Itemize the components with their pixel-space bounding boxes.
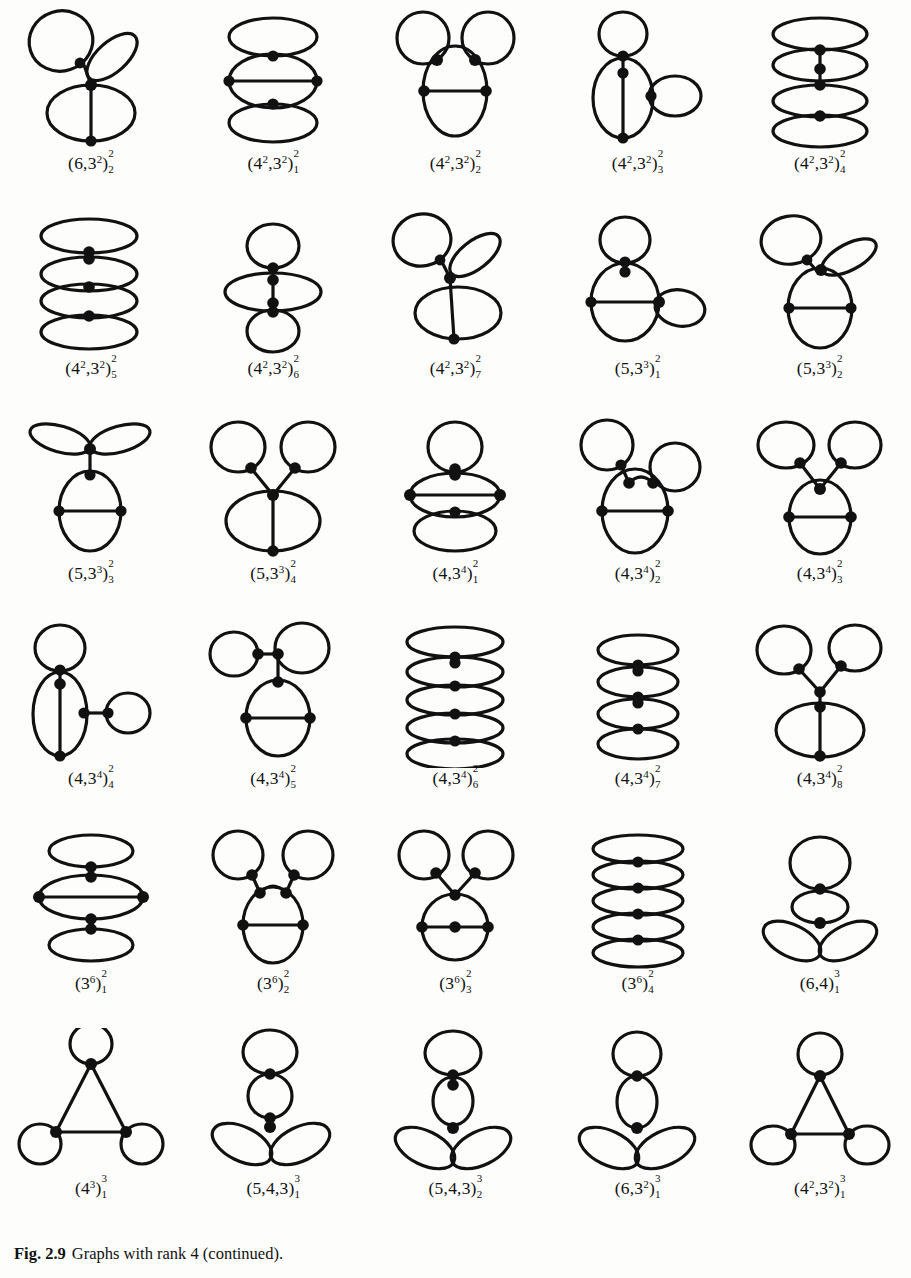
graph-drawing-g1 xyxy=(0,0,182,155)
graph-label: (5,33)23 xyxy=(68,561,114,583)
graph-label: (4,34)26 xyxy=(432,766,478,788)
graph-cell: (42,32)23 xyxy=(547,0,729,205)
graph-grid: (6,32)22 (42, xyxy=(0,0,911,1230)
graph-label: (5,33)21 xyxy=(615,356,661,378)
graph-cell: (42,32)26 xyxy=(182,205,364,410)
graph-drawing-g12 xyxy=(182,410,364,565)
graph-cell: (5,33)21 xyxy=(547,205,729,410)
graph-cell: (42,32)22 xyxy=(364,0,546,205)
graph-cell: (43)31 xyxy=(0,1025,182,1230)
figure-page: (6,32)22 (42, xyxy=(0,0,911,1278)
graph-drawing-g29 xyxy=(547,1025,729,1180)
graph-drawing-g6 xyxy=(0,205,182,360)
graph-drawing-g14 xyxy=(547,410,729,565)
graph-drawing-g3 xyxy=(364,0,546,155)
graph-cell: (5,33)23 xyxy=(0,410,182,615)
graph-drawing-g4 xyxy=(547,0,729,155)
graph-label: (6,4)31 xyxy=(800,971,840,993)
graph-drawing-g8 xyxy=(364,205,546,360)
graph-cell: (4,34)22 xyxy=(547,410,729,615)
graph-drawing-g11 xyxy=(0,410,182,565)
graph-label: (4,34)28 xyxy=(797,766,843,788)
graph-drawing-g28 xyxy=(364,1025,546,1180)
graph-drawing-g9 xyxy=(547,205,729,360)
graph-drawing-g15 xyxy=(729,410,911,565)
graph-label: (4,34)23 xyxy=(797,561,843,583)
graph-label: (6,32)31 xyxy=(615,1176,661,1198)
graph-label: (5,4,3)32 xyxy=(429,1176,483,1198)
graph-cell: (42,32)27 xyxy=(364,205,546,410)
graph-label: (4,34)27 xyxy=(615,766,661,788)
graph-drawing-g20 xyxy=(729,615,911,770)
graph-drawing-g18 xyxy=(364,615,546,770)
graph-drawing-g2 xyxy=(182,0,364,155)
graph-drawing-g23 xyxy=(364,820,546,975)
graph-cell: (4,34)28 xyxy=(729,615,911,820)
graph-drawing-g19 xyxy=(547,615,729,770)
graph-drawing-g17 xyxy=(182,615,364,770)
graph-drawing-g25 xyxy=(729,820,911,975)
graph-label: (6,32)22 xyxy=(68,151,114,173)
graph-cell: (4,34)24 xyxy=(0,615,182,820)
graph-label: (42,32)26 xyxy=(247,356,299,378)
graph-cell: (6,32)31 xyxy=(547,1025,729,1230)
graph-label: (4,34)21 xyxy=(432,561,478,583)
graph-cell: (42,32)24 xyxy=(729,0,911,205)
graph-cell: (42,32)21 xyxy=(182,0,364,205)
graph-label: (42,32)21 xyxy=(247,151,299,173)
graph-label: (4,34)25 xyxy=(250,766,296,788)
graph-cell: (4,34)26 xyxy=(364,615,546,820)
graph-cell: (5,33)22 xyxy=(729,205,911,410)
graph-cell: (5,33)24 xyxy=(182,410,364,615)
graph-cell: (5,4,3)31 xyxy=(182,1025,364,1230)
graph-drawing-g21 xyxy=(0,820,182,975)
figure-number: Fig. 2.9 xyxy=(14,1244,66,1263)
graph-label: (5,33)24 xyxy=(250,561,296,583)
figure-caption: Fig. 2.9Graphs with rank 4 (continued). xyxy=(14,1244,283,1264)
graph-drawing-g13 xyxy=(364,410,546,565)
graph-cell: (42,32)31 xyxy=(729,1025,911,1230)
graph-drawing-g27 xyxy=(182,1025,364,1180)
graph-label: (36)21 xyxy=(75,971,107,993)
graph-label: (42,32)25 xyxy=(65,356,117,378)
graph-cell: (6,32)22 xyxy=(0,0,182,205)
graph-cell: (6,4)31 xyxy=(729,820,911,1025)
graph-drawing-g7 xyxy=(182,205,364,360)
figure-caption-text: Graphs with rank 4 (continued). xyxy=(72,1244,283,1263)
graph-label: (42,32)27 xyxy=(430,356,482,378)
graph-cell: (4,34)27 xyxy=(547,615,729,820)
graph-label: (42,32)22 xyxy=(430,151,482,173)
graph-label: (36)24 xyxy=(621,971,653,993)
graph-drawing-g24 xyxy=(547,820,729,975)
graph-cell: (36)24 xyxy=(547,820,729,1025)
graph-cell: (36)22 xyxy=(182,820,364,1025)
graph-label: (4,34)24 xyxy=(68,766,114,788)
graph-cell: (42,32)25 xyxy=(0,205,182,410)
graph-label: (42,32)24 xyxy=(794,151,846,173)
graph-cell: (4,34)23 xyxy=(729,410,911,615)
graph-label: (5,4,3)31 xyxy=(246,1176,300,1198)
graph-label: (42,32)23 xyxy=(612,151,664,173)
graph-drawing-g22 xyxy=(182,820,364,975)
graph-drawing-g26 xyxy=(0,1025,182,1180)
graph-drawing-g30 xyxy=(729,1025,911,1180)
graph-cell: (4,34)25 xyxy=(182,615,364,820)
graph-drawing-g10 xyxy=(729,205,911,360)
graph-drawing-g5 xyxy=(729,0,911,155)
graph-drawing-g16 xyxy=(0,615,182,770)
graph-label: (5,33)22 xyxy=(797,356,843,378)
graph-cell: (5,4,3)32 xyxy=(364,1025,546,1230)
graph-label: (36)23 xyxy=(439,971,471,993)
graph-cell: (4,34)21 xyxy=(364,410,546,615)
graph-label: (36)22 xyxy=(257,971,289,993)
graph-label: (42,32)31 xyxy=(794,1176,846,1198)
graph-cell: (36)21 xyxy=(0,820,182,1025)
graph-label: (4,34)22 xyxy=(615,561,661,583)
graph-cell: (36)23 xyxy=(364,820,546,1025)
graph-label: (43)31 xyxy=(75,1176,107,1198)
